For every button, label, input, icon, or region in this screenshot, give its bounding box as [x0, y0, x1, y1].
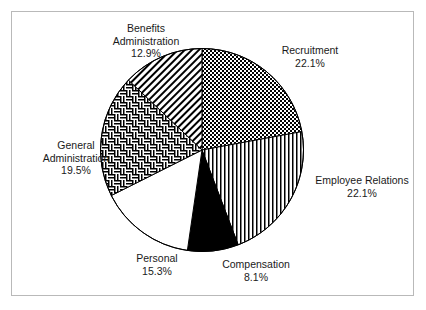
slice-label-employee-relations: Employee Relations 22.1% [300, 174, 424, 199]
slice-value-benefits-administration: 12.9% [86, 47, 206, 60]
slice-label-benefits-administration-line2: Administration [86, 35, 206, 48]
slice-label-recruitment-line1: Recruitment [255, 44, 365, 57]
slice-value-general-administration: 19.5% [20, 164, 132, 177]
slice-label-personal: Personal 15.3% [113, 252, 201, 277]
slice-label-general-administration: General Administration 19.5% [20, 139, 132, 177]
slice-value-compensation: 8.1% [200, 271, 312, 284]
slice-label-employee-relations-line1: Employee Relations [300, 174, 424, 187]
slice-label-recruitment: Recruitment 22.1% [255, 44, 365, 69]
slice-label-compensation-line1: Compensation [200, 258, 312, 271]
slice-value-recruitment: 22.1% [255, 57, 365, 70]
slice-label-general-administration-line2: Administration [20, 152, 132, 165]
pie-chart-figure: Benefits Administration 12.9% Recruitmen… [0, 0, 426, 310]
slice-label-benefits-administration-line1: Benefits [86, 22, 206, 35]
slice-label-personal-line1: Personal [113, 252, 201, 265]
slice-label-general-administration-line1: General [20, 139, 132, 152]
slice-value-employee-relations: 22.1% [300, 187, 424, 200]
slice-label-compensation: Compensation 8.1% [200, 258, 312, 283]
slice-label-benefits-administration: Benefits Administration 12.9% [86, 22, 206, 60]
slice-value-personal: 15.3% [113, 265, 201, 278]
